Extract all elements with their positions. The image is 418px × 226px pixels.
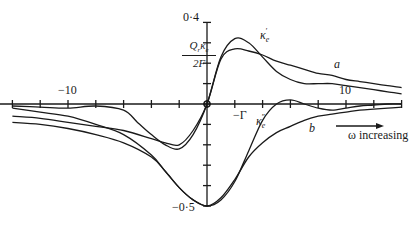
x-tick-label-pos10: 10 — [339, 84, 351, 96]
neg-gamma-label: −Γ — [233, 109, 247, 121]
y-axis-label-numerator: Qrκe — [182, 39, 216, 56]
y-tick-label-bottom: −0·5 — [172, 201, 195, 213]
omega-increasing-label: ω increasing — [348, 129, 408, 141]
y-axis-label: Qrκe 2F — [182, 39, 216, 69]
y-axis-label-denominator: 2F — [182, 56, 216, 69]
curve-label-kappa-double-prime: κe″ — [256, 114, 265, 130]
curve-label-a: a — [334, 58, 340, 70]
chart-canvas — [0, 0, 418, 226]
x-tick-label-neg10: −10 — [58, 84, 77, 96]
y-tick-label-top: 0·4 — [183, 11, 199, 23]
curve-label-kappa-prime: κe′ — [260, 28, 267, 44]
curve-label-b: b — [309, 122, 315, 134]
